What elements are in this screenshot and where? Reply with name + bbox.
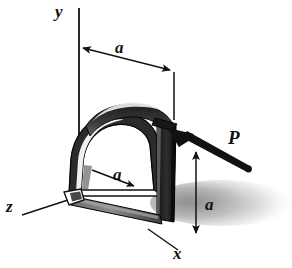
- dimension-label-top: a: [115, 39, 124, 56]
- force-label-p: P: [228, 128, 240, 147]
- axis-label-x: x: [173, 245, 182, 262]
- dimension-label-right: a: [205, 196, 214, 213]
- axis-label-y: y: [55, 3, 63, 20]
- dimension-line-top: [83, 48, 170, 70]
- figure-canvas: y z x a a a P: [0, 0, 292, 268]
- dimension-label-inner: a: [113, 166, 122, 183]
- technical-figure-svg: [0, 0, 292, 268]
- z-axis: [22, 199, 71, 215]
- bent-bar-solid: [64, 102, 177, 224]
- axis-label-z: z: [6, 198, 13, 215]
